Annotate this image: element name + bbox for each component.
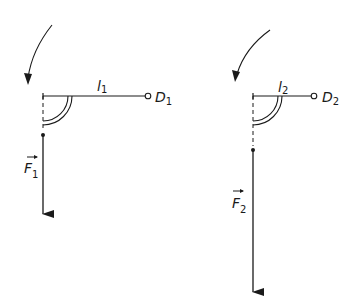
pivot-circle-icon — [145, 93, 151, 99]
pivot-label: D2 — [322, 89, 339, 107]
vector-over-arrowhead-icon — [34, 155, 38, 159]
lever-diagram: l1 D1 F1 l2 D2 F2 — [0, 0, 359, 302]
pivot-circle-icon — [311, 93, 317, 99]
rotation-arrow-icon — [237, 30, 270, 74]
force-label: F1 — [24, 160, 38, 180]
lever-label: l2 — [278, 79, 288, 96]
vector-over-arrowhead-icon — [240, 189, 244, 193]
rotation-arrowhead-icon — [232, 70, 240, 82]
left-lever-group: l1 D1 F1 — [24, 25, 172, 214]
force-label: F2 — [232, 195, 246, 215]
pivot-label: D1 — [155, 89, 172, 107]
rotation-arrowhead-icon — [24, 73, 32, 85]
rotation-arrow-icon — [28, 25, 52, 78]
right-lever-group: l2 D2 F2 — [232, 30, 339, 292]
right-angle-arc-inner — [253, 96, 278, 121]
lever-label: l1 — [97, 78, 107, 95]
right-angle-arc-inner — [43, 96, 68, 121]
